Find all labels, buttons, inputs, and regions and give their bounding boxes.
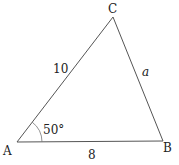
side-label-bc: a	[142, 65, 149, 79]
vertex-label-b: B	[163, 141, 172, 155]
side-label-ab: 8	[88, 148, 96, 162]
triangle-abc	[17, 17, 163, 142]
vertex-label-c: C	[108, 2, 117, 16]
angle-label-a: 50°	[43, 123, 64, 137]
angle-arc-a	[32, 122, 42, 142]
triangle-diagram: A B C 10 a 8 50°	[0, 0, 179, 165]
vertex-label-a: A	[2, 144, 12, 158]
side-label-ac: 10	[53, 62, 68, 76]
